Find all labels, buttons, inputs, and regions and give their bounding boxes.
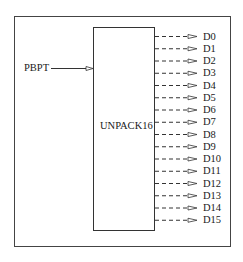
output-label-d9: D9 <box>203 141 216 153</box>
output-label-d13: D13 <box>203 190 221 202</box>
output-label-d3: D3 <box>203 67 216 79</box>
arrow-icon <box>188 35 197 39</box>
input-label-pbpt: PBPT <box>24 62 49 74</box>
block-label: UNPACK16 <box>100 120 153 132</box>
arrow-icon <box>188 145 197 149</box>
arrow-icon <box>188 182 197 186</box>
arrow-icon <box>188 47 197 51</box>
arrow-icon <box>188 108 197 112</box>
arrow-icon <box>188 120 197 124</box>
arrow-icon <box>188 71 197 75</box>
input-connector <box>51 67 93 71</box>
output-label-d14: D14 <box>203 202 221 214</box>
output-label-d4: D4 <box>203 80 216 92</box>
arrow-icon <box>188 157 197 161</box>
output-label-d15: D15 <box>203 214 221 226</box>
output-label-d8: D8 <box>203 129 216 141</box>
arrow-icon <box>188 133 197 137</box>
output-label-d11: D11 <box>203 165 221 177</box>
output-label-d0: D0 <box>203 31 216 43</box>
arrow-icon <box>188 206 197 210</box>
arrow-icon <box>188 169 197 173</box>
output-label-d2: D2 <box>203 55 216 67</box>
arrow-icon <box>188 218 197 222</box>
output-label-d12: D12 <box>203 178 221 190</box>
arrow-icon <box>188 194 197 198</box>
output-label-d6: D6 <box>203 104 216 116</box>
output-label-d7: D7 <box>203 116 216 128</box>
arrow-icon <box>188 84 197 88</box>
output-label-d5: D5 <box>203 92 216 104</box>
arrow-icon <box>86 67 93 71</box>
output-label-d1: D1 <box>203 43 216 55</box>
arrow-icon <box>188 59 197 63</box>
arrow-icon <box>188 96 197 100</box>
output-label-d10: D10 <box>203 153 221 165</box>
output-connectors <box>155 35 197 223</box>
